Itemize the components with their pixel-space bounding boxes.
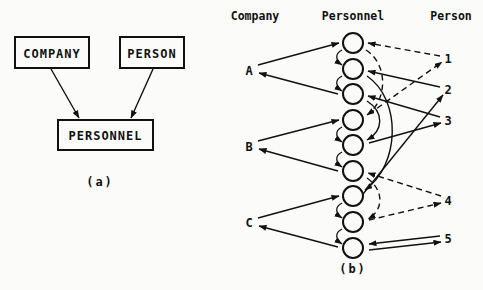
company-b: B xyxy=(245,140,252,154)
company-links xyxy=(258,43,339,247)
entity-person-label: PERSON xyxy=(127,47,176,61)
company-c: C xyxy=(245,216,252,230)
entity-personnel: PERSONNEL xyxy=(58,120,153,150)
person-5-chain xyxy=(369,236,441,250)
caption-a: (a) xyxy=(86,175,114,189)
company-a: A xyxy=(245,64,253,78)
personnel-record-7 xyxy=(343,186,363,206)
person-3-chain xyxy=(367,96,441,143)
person-4: 4 xyxy=(444,194,451,208)
company-chain xyxy=(337,50,342,244)
personnel-record-1 xyxy=(343,33,363,53)
personnel-record-8 xyxy=(343,212,363,232)
entity-personnel-label: PERSONNEL xyxy=(68,129,142,143)
person-3: 3 xyxy=(444,114,451,128)
person-2: 2 xyxy=(444,83,451,97)
entity-person: PERSON xyxy=(120,37,184,68)
entity-company: COMPANY xyxy=(15,37,89,68)
person-5: 5 xyxy=(444,232,451,246)
personnel-record-5 xyxy=(343,135,363,155)
person-1: 1 xyxy=(444,52,451,66)
personnel-record-6 xyxy=(343,161,363,181)
arrow-person-personnel xyxy=(131,69,153,118)
header-company: Company xyxy=(231,9,280,23)
personnel-record-2 xyxy=(343,59,363,79)
personnel-record-3 xyxy=(343,84,363,104)
header-person: Person xyxy=(430,9,472,23)
arrow-company-personnel xyxy=(51,69,79,118)
personnel-records xyxy=(343,33,363,258)
diagram-canvas: COMPANY PERSON PERSONNEL (a) Company Per… xyxy=(0,0,483,290)
caption-b: (b) xyxy=(339,262,367,276)
header-personnel: Personnel xyxy=(322,9,384,23)
personnel-record-9 xyxy=(343,238,363,258)
panel-a: COMPANY PERSON PERSONNEL (a) xyxy=(15,37,184,189)
entity-company-label: COMPANY xyxy=(23,47,81,61)
person-4-chain xyxy=(367,173,441,220)
panel-b: Company Personnel Person A B C 1 2 3 4 5 xyxy=(231,9,472,276)
personnel-record-4 xyxy=(343,110,363,130)
